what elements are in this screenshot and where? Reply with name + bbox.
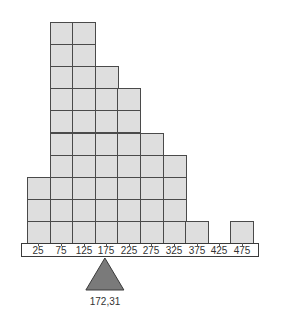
stacked-block-histogram: 2575125175225275325375425475 172,31	[0, 0, 282, 319]
balance-point-label: 172,31	[80, 296, 130, 308]
fulcrum-triangle-icon	[0, 0, 282, 319]
